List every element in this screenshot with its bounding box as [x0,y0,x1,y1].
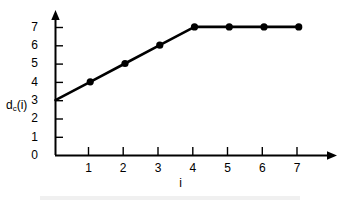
chart-figure: 7 6 5 4 3 2 1 0 1 2 3 4 5 6 7 dc(i) i [0,0,347,200]
data-point-marker [156,42,163,49]
y-axis-title: dc(i) [6,98,27,112]
data-point-marker [191,23,198,30]
data-point-marker [121,60,128,67]
y-axis-title-base: d [6,98,13,112]
axis-group [51,10,337,160]
caption-fragment [40,196,300,200]
y-tick-label-7: 7 [24,21,38,33]
data-point-marker [226,23,233,30]
data-point-marker [260,23,267,30]
y-tick-label-4: 4 [24,76,38,88]
y-tick-label-2: 2 [24,112,38,124]
x-tick-label-1: 1 [82,162,96,174]
y-tick-label-1: 1 [24,131,38,143]
x-axis-title: i [0,176,347,190]
x-tick-label-5: 5 [221,162,235,174]
y-tick-label-6: 6 [24,39,38,51]
x-tick-label-6: 6 [255,162,269,174]
y-axis-arrow-icon [51,10,59,20]
x-axis-title-text: i [179,176,182,190]
x-tick-label-7: 7 [290,162,304,174]
x-axis-arrow-icon [327,151,337,159]
data-line-series-1 [56,27,299,100]
data-point-marker [87,78,94,85]
x-tick-label-4: 4 [186,162,200,174]
x-tick-marks [89,147,298,155]
x-tick-label-2: 2 [116,162,130,174]
y-axis-title-arg: (i) [17,98,28,112]
data-point-marker [295,23,302,30]
x-tick-label-3: 3 [151,162,165,174]
y-tick-label-5: 5 [24,57,38,69]
data-point-markers [87,23,303,85]
y-tick-label-0: 0 [24,149,38,161]
y-axis-title-subscript: c [13,104,17,113]
